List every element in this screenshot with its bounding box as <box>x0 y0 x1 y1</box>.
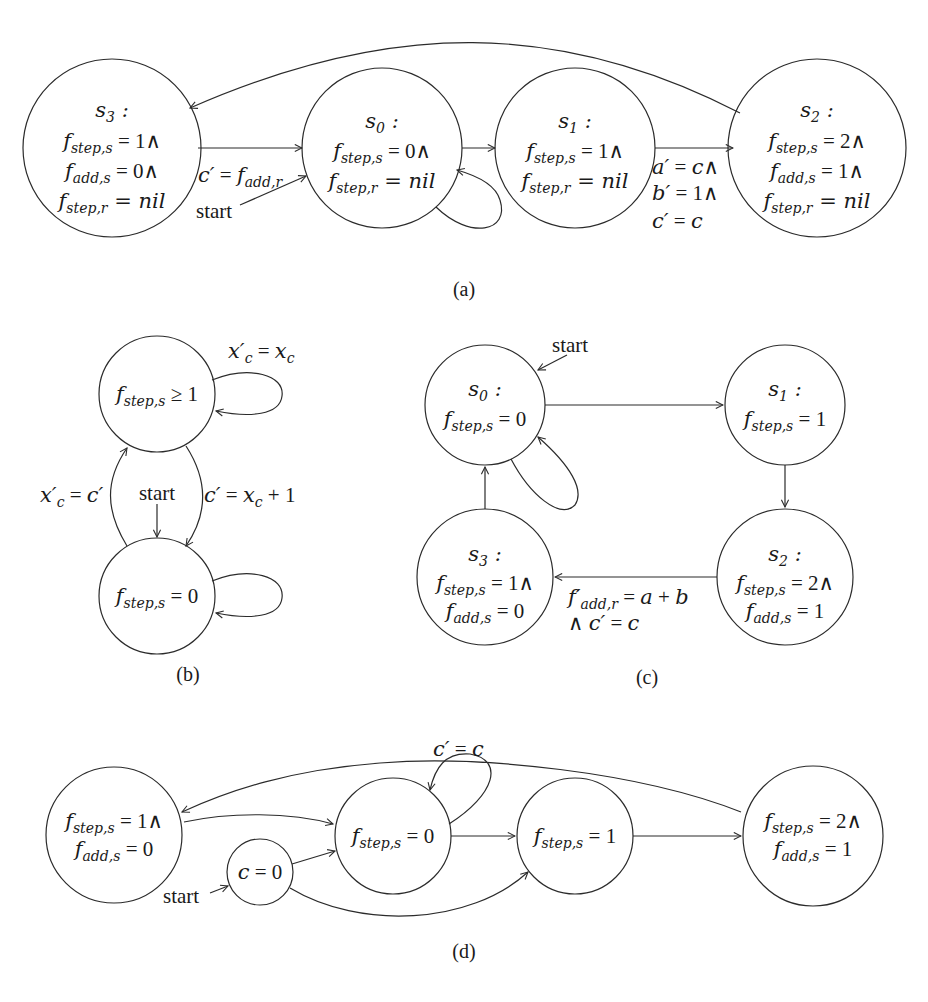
edge-d-q0-self <box>430 754 491 824</box>
edge-b-bottom-top-label: x′c = c′ <box>40 483 104 510</box>
state-c-s0-line1: fstep,s = 0 <box>442 407 526 434</box>
state-c-s0-title: s0 : <box>468 377 501 404</box>
edge-c-s0-self <box>511 437 578 509</box>
state-a-s0-title: s0 : <box>365 109 398 136</box>
state-c-s1-title: s1 : <box>768 377 801 404</box>
state-a-s3-line1: fstep,s = 1∧ <box>61 129 161 156</box>
state-b-bottom-line1: fstep,s = 0 <box>114 584 198 611</box>
state-d-q3-line1: fstep,s = 1∧ <box>63 809 163 836</box>
state-d-q2-line2: fadd,s = 1 <box>772 837 853 864</box>
state-a-s3-title: s3 : <box>95 98 128 125</box>
caption-d: (d) <box>452 940 475 963</box>
state-c-s1-line1: fstep,s = 1 <box>742 407 826 434</box>
state-c-s2-title: s2 : <box>768 542 801 569</box>
state-a-s2-title: s2 : <box>800 98 833 125</box>
edge-b-top-self-label: x′c = xc <box>228 339 295 366</box>
state-a-s3-line2: fadd,s = 0∧ <box>63 159 159 186</box>
edge-d-init-q1 <box>290 872 528 916</box>
state-c-s0 <box>425 345 545 465</box>
edge-d-q0-self-label: c′ = c <box>433 737 484 761</box>
state-c-s2-line1: fstep,s = 2∧ <box>734 571 834 598</box>
state-a-s1-title: s1 : <box>558 109 591 136</box>
state-d-q1-line1: fstep,s = 1 <box>532 824 616 851</box>
start-arrow-c <box>538 355 567 370</box>
start-label-c: start <box>552 333 588 357</box>
edge-a-s0-self <box>436 170 502 228</box>
state-c-s3-line2: fadd,s = 0 <box>444 599 525 626</box>
start-arrow-d <box>210 886 228 893</box>
diagram-b: fstep,s ≥ 1 fstep,s = 0 x′c = xc x′c = c… <box>40 336 295 686</box>
state-a-s1-line2: fstep,r = nil <box>520 169 629 196</box>
figure-canvas: s3 : fstep,s = 1∧ fadd,s = 0∧ fstep,r = … <box>0 0 928 1002</box>
edge-a-s3-s0-label: c′ = fadd,r <box>198 163 283 190</box>
caption-b: (b) <box>176 663 199 686</box>
state-a-s3-line3: fstep,r = nil <box>57 189 166 216</box>
state-a-s2-line1: fstep,s = 2∧ <box>766 129 866 156</box>
diagram-a: s3 : fstep,s = 1∧ fadd,s = 0∧ fstep,r = … <box>23 43 906 301</box>
state-d-q2 <box>743 766 883 906</box>
diagram-d: fstep,s = 1∧ fadd,s = 0 c = 0 fstep,s = … <box>46 737 883 963</box>
edge-d-init-q0 <box>292 851 335 864</box>
edge-a-s1-s2-label3: c′ = c <box>652 209 703 233</box>
state-d-q3-line2: fadd,s = 0 <box>73 837 154 864</box>
edge-b-top-bottom <box>186 446 203 546</box>
state-a-s1-line1: fstep,s = 1∧ <box>524 139 624 166</box>
start-label-a: start <box>196 199 232 223</box>
edge-c-s2-s3-label2: ∧ c′ = c <box>568 611 640 635</box>
edge-b-bottom-top <box>111 448 128 546</box>
start-label-b: start <box>139 481 175 505</box>
edge-b-top-bottom-label: c′ = xc + 1 <box>204 483 295 510</box>
edge-c-s2-s3-label1: f′add,r = a + b <box>566 585 689 612</box>
state-d-q0-line1: fstep,s = 0 <box>350 824 434 851</box>
state-c-s3-line1: fstep,s = 1∧ <box>434 571 534 598</box>
diagram-c: s0 : fstep,s = 0 s1 : fstep,s = 1 s3 : f… <box>417 333 853 689</box>
state-b-top-line1: fstep,s ≥ 1 <box>114 382 198 409</box>
caption-a: (a) <box>453 278 475 301</box>
edge-a-s1-s2-label1: a′ = c∧ <box>652 155 719 179</box>
edge-d-q2-q3 <box>182 761 741 812</box>
edge-b-top-self <box>212 373 282 415</box>
start-label-d: start <box>163 884 199 908</box>
state-d-q2-line1: fstep,s = 2∧ <box>762 809 862 836</box>
state-c-s1 <box>725 345 845 465</box>
edge-a-s2-s3 <box>190 43 740 113</box>
state-a-s0-line2: fstep,r = nil <box>327 169 436 196</box>
state-c-s3-title: s3 : <box>468 542 501 569</box>
state-a-s0-line1: fstep,s = 0∧ <box>331 139 431 166</box>
edge-b-bottom-self <box>212 574 282 617</box>
state-d-init-line1: c = 0 <box>238 860 283 884</box>
state-c-s2-line2: fadd,s = 1 <box>744 599 825 626</box>
state-a-s2-line2: fadd,s = 1∧ <box>768 159 864 186</box>
state-a-s2-line3: fstep,r = nil <box>762 189 871 216</box>
edge-a-s1-s2-label2: b′ = 1∧ <box>652 181 718 205</box>
caption-c: (c) <box>636 666 658 689</box>
edge-d-q3-q0 <box>184 815 333 824</box>
